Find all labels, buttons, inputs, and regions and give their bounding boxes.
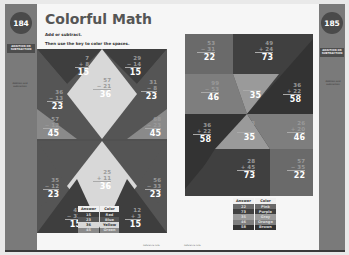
problem-box: 7+ 815 <box>75 55 89 77</box>
problem-box: 35− 1223 <box>43 177 59 199</box>
problem-box: 57− 2136 <box>93 77 111 99</box>
left-side-tab <box>5 4 37 250</box>
page-title: Colorful Math <box>45 11 152 27</box>
section-tag: ADDITION OR SUBTRACTION <box>320 48 344 57</box>
problem-box: 56− 3323 <box>145 177 161 199</box>
problem-box: 99− 6435 <box>243 78 261 100</box>
key-color: Green <box>100 228 119 233</box>
problem-box: 36− 1323 <box>47 89 63 111</box>
instruction-2: Then use the key to color the spaces. <box>45 41 129 46</box>
problem-box: 25+ 1136 <box>93 169 111 191</box>
instruction-1: Add or subtract. <box>45 32 82 37</box>
right-page: 185 ADDITION OR SUBTRACTION Addition and… <box>176 4 345 250</box>
workbook-spread: 184 ADDITION OR SUBTRACTION Addition and… <box>5 4 345 252</box>
problem-box: 36+ 2258 <box>283 82 301 104</box>
page-number-badge: 184 <box>10 12 32 34</box>
problem-box: 36+ 2258 <box>193 122 211 144</box>
problem-box: 57− 1245 <box>43 116 59 138</box>
page-number-badge: 185 <box>321 12 343 34</box>
color-key-table: AnswerColor 15Red 23Blue 36Yellow 45Gree… <box>77 206 120 233</box>
footer-note: Reference note <box>184 244 201 247</box>
problem-box: 29− 1415 <box>125 55 141 77</box>
problem-box: 26+ 2046 <box>287 120 305 142</box>
problem-box: 57− 3522 <box>287 158 305 180</box>
left-page: 184 ADDITION OR SUBTRACTION Addition and… <box>5 4 176 250</box>
problem-box: 49+ 2473 <box>255 40 273 62</box>
problem-box: 53− 3122 <box>197 40 215 62</box>
footer-note: Reference note <box>143 244 160 247</box>
section-tag: ADDITION OR SUBTRACTION <box>7 44 35 53</box>
key-answer: 45 <box>78 228 99 233</box>
problem-box: 28+ 4573 <box>237 158 255 180</box>
key-answer: 58 <box>233 225 254 230</box>
right-side-tab <box>319 4 345 250</box>
right-color-puzzle: 53− 3122 49+ 2473 99− 5346 99− 6435 36+ … <box>185 34 313 196</box>
problem-box: 13+ 2235 <box>237 120 255 142</box>
problem-box: 31− 823 <box>141 79 157 101</box>
problem-box: 68− 2345 <box>145 116 161 138</box>
key-color: Brown <box>255 225 276 230</box>
key-color: Orange <box>255 220 276 225</box>
problem-box: 99− 5346 <box>201 80 219 102</box>
color-key-table: AnswerColor 22Pink 73Purple 35Gray 46Ora… <box>232 198 277 230</box>
section-note: Addition and subtraction <box>7 82 33 88</box>
section-note: Addition and subtraction <box>322 80 344 86</box>
problem-box: 12+ 315 <box>125 207 141 229</box>
